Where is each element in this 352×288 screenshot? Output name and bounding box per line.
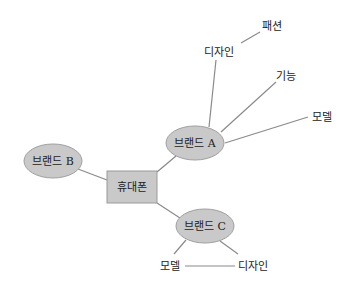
node-brand-b-label: 브랜드 B [32,155,74,168]
node-center-label: 휴대폰 [117,181,147,194]
edge-brand-a-design [209,60,216,127]
edge-brand-c-model [174,240,186,254]
node-brand-c-label: 브랜드 C [184,220,226,233]
node-center[interactable]: 휴대폰 [107,171,157,203]
label-brand-c-model: 모델 [160,260,180,273]
edge-brand-c-design [220,241,238,254]
label-brand-a-function: 기능 [276,70,296,83]
edge-brand-a-model [225,117,308,143]
edge-center-brand-c [157,203,180,218]
node-brand-c[interactable]: 브랜드 C [176,209,234,243]
edge-center-brand-b [78,169,107,180]
edge-center-brand-a [157,156,176,172]
label-brand-a-fashion: 패션 [262,20,282,33]
node-brand-a[interactable]: 브랜드 A [166,126,224,160]
node-brand-a-label: 브랜드 A [174,137,216,150]
mind-map-canvas: 휴대폰 브랜드 A 브랜드 B 브랜드 C 디자인 패션 기능 모델 모델 디자… [0,0,352,288]
label-brand-a-model: 모델 [312,111,332,124]
node-brand-b[interactable]: 브랜드 B [24,144,82,178]
label-brand-a-design: 디자인 [204,46,234,59]
edge-brand-a-function [221,82,276,132]
edge-design-fashion [241,32,260,43]
label-brand-c-design: 디자인 [238,260,268,273]
